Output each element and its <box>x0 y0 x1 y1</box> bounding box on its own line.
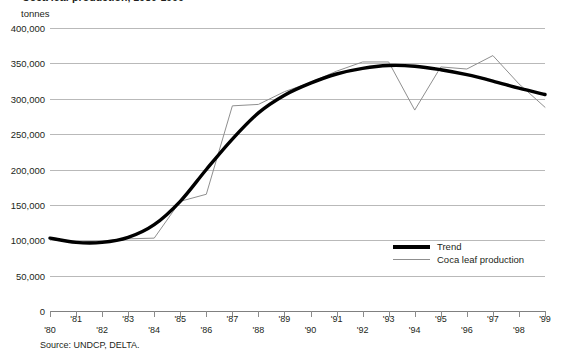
legend-item-production: Coca leaf production <box>393 253 543 266</box>
legend-label-production: Coca leaf production <box>430 254 524 265</box>
legend-label-trend: Trend <box>430 241 461 252</box>
production-line-swatch-icon <box>393 259 430 260</box>
source-note: Source: UNDCP, DELTA. <box>40 340 140 350</box>
coca-leaf-production-line <box>50 56 545 243</box>
legend: Trend Coca leaf production <box>393 240 543 266</box>
trend-line <box>50 65 545 243</box>
series-lines <box>0 0 567 357</box>
trend-line-swatch-icon <box>393 245 430 249</box>
legend-item-trend: Trend <box>393 240 543 253</box>
coca-leaf-production-chart: Coca leaf production, 1980-1999 tonnes 4… <box>0 0 567 357</box>
